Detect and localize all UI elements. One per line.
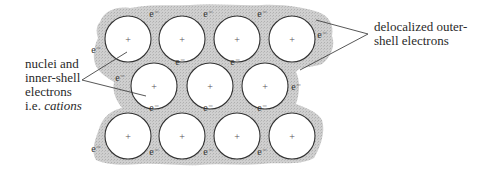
electron-label: e⁻ xyxy=(149,102,158,113)
cation: + xyxy=(269,113,315,159)
cations-label-line1: nuclei and xyxy=(25,57,82,71)
electrons-label-line2: shell electrons xyxy=(374,34,467,48)
plus-icon: + xyxy=(125,34,131,45)
cation: + xyxy=(214,113,260,159)
electron-label: e⁻ xyxy=(257,8,266,19)
electron-label: e⁻ xyxy=(149,8,158,19)
electron-label: e⁻ xyxy=(257,102,266,113)
cations-label-line3: electrons xyxy=(25,85,82,99)
cation: + xyxy=(269,16,315,62)
electron-label: e⁻ xyxy=(115,72,124,83)
electron-label: e⁻ xyxy=(203,146,212,157)
cations-label-italic: cations xyxy=(44,98,82,113)
cation: + xyxy=(105,16,151,62)
plus-icon: + xyxy=(151,81,157,92)
plus-icon: + xyxy=(262,81,268,92)
plus-icon: + xyxy=(234,131,240,142)
electron-label: e⁻ xyxy=(203,8,212,19)
electron-label: e⁻ xyxy=(91,44,100,55)
electron-label: e⁻ xyxy=(317,29,326,40)
cation: + xyxy=(105,113,151,159)
electron-label: e⁻ xyxy=(149,146,158,157)
electron-label: e⁻ xyxy=(175,56,184,67)
cations-label-line4: i.e. cations xyxy=(25,99,82,113)
cation: + xyxy=(159,113,205,159)
electrons-label-line1: delocalized outer- xyxy=(374,20,467,34)
plus-icon: + xyxy=(289,34,295,45)
electron-label: e⁻ xyxy=(91,143,100,154)
electrons-label: delocalized outer- shell electrons xyxy=(374,20,467,48)
electron-label: e⁻ xyxy=(257,146,266,157)
plus-icon: + xyxy=(207,81,213,92)
plus-icon: + xyxy=(179,131,185,142)
plus-icon: + xyxy=(125,131,131,142)
plus-icon: + xyxy=(234,34,240,45)
electron-label: e⁻ xyxy=(291,81,300,92)
electron-label: e⁻ xyxy=(230,56,239,67)
plus-icon: + xyxy=(289,131,295,142)
plus-icon: + xyxy=(179,34,185,45)
cations-label: nuclei and inner-shell electrons i.e. ca… xyxy=(25,57,82,113)
electron-label: e⁻ xyxy=(203,102,212,113)
cations-label-line2: inner-shell xyxy=(25,71,82,85)
cations-label-prefix: i.e. xyxy=(25,98,44,113)
